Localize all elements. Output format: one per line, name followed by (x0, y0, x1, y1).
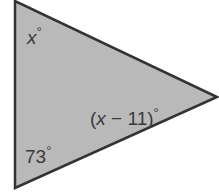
triangle-diagram: x° (x − 11)° 73° (0, 0, 219, 192)
angle-label-right: (x − 11)° (90, 105, 159, 129)
